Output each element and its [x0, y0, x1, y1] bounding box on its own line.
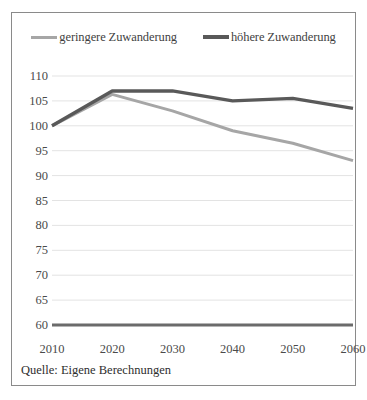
x-tick-label: 2030	[160, 342, 185, 357]
source-note: Quelle: Eigene Berechnungen	[21, 363, 171, 378]
line-chart-svg	[12, 13, 357, 387]
y-tick-label: 105	[16, 93, 48, 108]
x-tick-label: 2040	[220, 342, 245, 357]
y-tick-label: 80	[16, 218, 48, 233]
y-tick-label: 70	[16, 268, 48, 283]
y-tick-label: 100	[16, 118, 48, 133]
x-tick-label: 2010	[40, 342, 65, 357]
y-axis-tick-labels: 6065707580859095100105110	[16, 13, 48, 387]
plot-area: 6065707580859095100105110 20102020203020…	[12, 13, 357, 387]
y-tick-label: 75	[16, 243, 48, 258]
x-axis-tick-labels: 201020202030204020502060	[12, 342, 357, 364]
y-tick-label: 60	[16, 318, 48, 333]
x-tick-label: 2050	[280, 342, 305, 357]
y-tick-label: 95	[16, 143, 48, 158]
x-tick-label: 2060	[341, 342, 366, 357]
figure-frame: geringere Zuwanderung höhere Zuwanderung…	[11, 12, 356, 386]
x-tick-label: 2020	[100, 342, 125, 357]
y-tick-label: 110	[16, 69, 48, 84]
y-tick-label: 85	[16, 193, 48, 208]
y-tick-label: 90	[16, 168, 48, 183]
y-tick-label: 65	[16, 293, 48, 308]
